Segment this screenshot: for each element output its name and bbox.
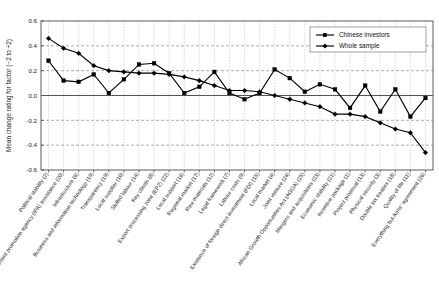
data-point-marker	[106, 68, 111, 73]
data-point-marker	[393, 87, 397, 91]
chart-legend: Chinese investorsWhole sample	[310, 27, 426, 52]
data-point-marker	[348, 106, 352, 110]
data-point-marker	[107, 91, 111, 95]
data-point-marker	[303, 90, 307, 94]
data-point-marker	[182, 91, 186, 95]
y-axis-tick-label: 0.0	[28, 92, 37, 99]
y-axis-title: Mean change rating for factor (−2 to +2)	[5, 39, 13, 152]
data-point-marker	[378, 120, 383, 125]
y-axis-tick-label: 0.2	[28, 67, 37, 74]
data-point-marker	[363, 84, 367, 88]
legend-marker	[323, 33, 327, 37]
data-point-marker	[197, 78, 202, 83]
data-point-marker	[272, 93, 277, 98]
legend-label: Chinese investors	[339, 31, 390, 38]
data-point-marker	[122, 70, 127, 75]
data-point-marker	[333, 87, 337, 91]
data-point-marker	[424, 96, 428, 100]
data-point-marker	[122, 77, 126, 81]
y-axis-tick-label: -0.6	[26, 166, 37, 173]
x-axis-labels: Political stability (2)Investment promot…	[0, 171, 426, 277]
data-point-marker	[408, 115, 412, 119]
data-point-marker	[197, 85, 201, 89]
data-point-marker	[363, 114, 368, 119]
y-axis-tick-label: -0.4	[26, 141, 37, 148]
legend-label: Whole sample	[339, 42, 380, 50]
chart-container: 0.60.40.20.0-0.2-0.4-0.6 Political stabi…	[0, 0, 439, 301]
data-point-marker	[302, 101, 307, 106]
data-point-marker	[152, 61, 156, 65]
chart-svg: 0.60.40.20.0-0.2-0.4-0.6 Political stabi…	[0, 0, 439, 301]
y-axis-tick-label: 0.6	[28, 17, 37, 24]
data-point-marker	[318, 82, 322, 86]
data-point-marker	[242, 88, 247, 93]
data-point-marker	[77, 80, 81, 84]
data-point-marker	[182, 74, 187, 79]
data-point-marker	[243, 97, 247, 101]
data-point-marker	[348, 112, 353, 117]
y-axis-tick-label: -0.2	[26, 117, 37, 124]
data-point-marker	[273, 68, 277, 72]
data-point-marker	[137, 71, 142, 76]
data-point-marker	[288, 76, 292, 80]
data-point-marker	[212, 70, 216, 74]
data-point-marker	[333, 112, 338, 117]
y-axis-label: Mean change rating for factor (−2 to +2)	[5, 39, 13, 152]
chart-plot-area: 0.60.40.20.0-0.2-0.4-0.6 Political stabi…	[0, 0, 439, 301]
y-axis-tick-label: 0.4	[28, 42, 37, 49]
data-point-marker	[152, 71, 157, 76]
data-point-marker	[212, 83, 217, 88]
series-1	[47, 59, 428, 119]
data-point-marker	[92, 72, 96, 76]
data-point-marker	[62, 79, 66, 83]
data-point-marker	[378, 110, 382, 114]
data-point-marker	[393, 127, 398, 132]
data-point-marker	[47, 59, 51, 63]
data-point-marker	[287, 97, 292, 102]
data-point-marker	[318, 104, 323, 109]
data-point-marker	[137, 63, 141, 67]
